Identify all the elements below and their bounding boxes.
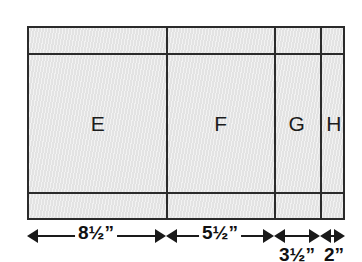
section-label-f: F: [214, 113, 227, 134]
dimension-e: 8½”: [27, 226, 166, 246]
arrow-right-icon: [334, 229, 345, 243]
panel-dimension-diagram: E F G H 8½” 5½” 3½”: [0, 0, 362, 262]
section-label-g: G: [289, 113, 306, 134]
section-label-h: H: [326, 113, 342, 134]
dimension-f: 5½”: [166, 226, 274, 246]
dimension-label-e: 8½”: [75, 223, 117, 242]
dimension-label-h: 2”: [324, 245, 344, 262]
dimension-label-g: 3½”: [279, 245, 315, 262]
dimension-g: 3½”: [274, 226, 320, 246]
arrow-right-icon: [309, 229, 320, 243]
section-label-e: E: [91, 113, 106, 134]
divider-f-g: [274, 28, 276, 218]
arrow-right-icon: [155, 229, 166, 243]
dimension-h: 2”: [320, 226, 345, 246]
arrow-right-icon: [263, 229, 274, 243]
divider-e-f: [166, 28, 168, 218]
divider-g-h: [320, 28, 322, 218]
top-rail-line: [29, 53, 343, 55]
bottom-rail-line: [29, 192, 343, 194]
dimension-label-f: 5½”: [199, 223, 241, 242]
panel-rectangle: E F G H: [27, 26, 345, 220]
dimension-rule: [283, 235, 311, 237]
dimension-row: 8½” 5½” 3½” 2”: [0, 226, 362, 262]
